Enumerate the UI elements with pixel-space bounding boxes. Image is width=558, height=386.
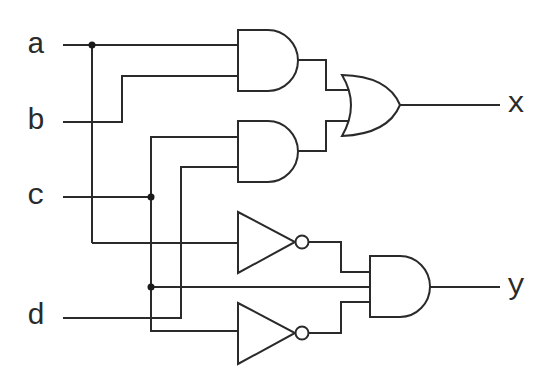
input-label-b: b (27, 106, 45, 136)
wire-not1-to-and3 (309, 242, 370, 272)
not-gate-2 (238, 303, 295, 364)
not-gate-1 (238, 212, 295, 273)
logic-circuit-diagram (0, 0, 558, 386)
wire-b (63, 76, 238, 122)
and-gate-2 (238, 121, 298, 182)
and-gate-3 (370, 256, 430, 317)
junction-a (89, 42, 96, 49)
not-bubble-2 (296, 327, 309, 340)
wire-not2-to-and3 (309, 302, 370, 333)
input-label-d: d (27, 301, 45, 331)
not-bubble-1 (296, 236, 309, 249)
and-gate-1 (238, 30, 298, 91)
output-label-y: y (507, 271, 525, 301)
junction-c-1 (148, 194, 155, 201)
input-label-a: a (27, 30, 45, 60)
or-gate (342, 75, 400, 136)
input-label-c: c (27, 181, 45, 211)
output-label-x: x (507, 89, 525, 119)
junction-c-2 (148, 284, 155, 291)
